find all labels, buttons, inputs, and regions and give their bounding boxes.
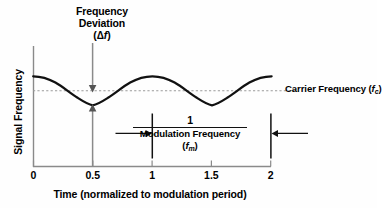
modulation-frequency-label: 1 Modulation Frequency (fm): [133, 114, 247, 153]
x-tick-label-0: 0: [31, 169, 37, 181]
modulation-symbol: (fm): [133, 140, 247, 153]
frequency-deviation-line1: Frequency: [60, 6, 144, 18]
mod-paren-close: ): [195, 140, 198, 151]
deviation-arrow-up: [89, 104, 97, 166]
fraction-numerator: 1: [133, 114, 247, 126]
frequency-deviation-label: Frequency Deviation (Δf): [60, 6, 144, 41]
modulation-arrow-right: [272, 130, 309, 137]
frequency-deviation-symbol: (Δf): [60, 30, 144, 42]
deviation-arrow-down: [89, 43, 97, 93]
x-tick-label-1p5: 1.5: [204, 169, 219, 181]
carrier-frequency-label: Carrier Frequency (fc): [285, 84, 382, 96]
x-tick-label-0p5: 0.5: [85, 169, 100, 181]
x-axis-ticks: [34, 161, 271, 167]
x-tick-label-1: 1: [149, 169, 155, 181]
y-axis-title: Signal Frequency: [13, 47, 25, 177]
carrier-frequency-text: Carrier Frequency (: [285, 83, 372, 94]
x-tick-label-2: 2: [268, 169, 274, 181]
carrier-paren-close: ): [379, 83, 382, 94]
fraction-denominator: Modulation Frequency: [133, 128, 247, 140]
delta-symbol: Δ: [97, 30, 104, 41]
x-axis-title: Time (normalized to modulation period): [0, 189, 300, 201]
frequency-deviation-line2: Deviation: [60, 18, 144, 30]
paren-close: ): [107, 29, 110, 41]
